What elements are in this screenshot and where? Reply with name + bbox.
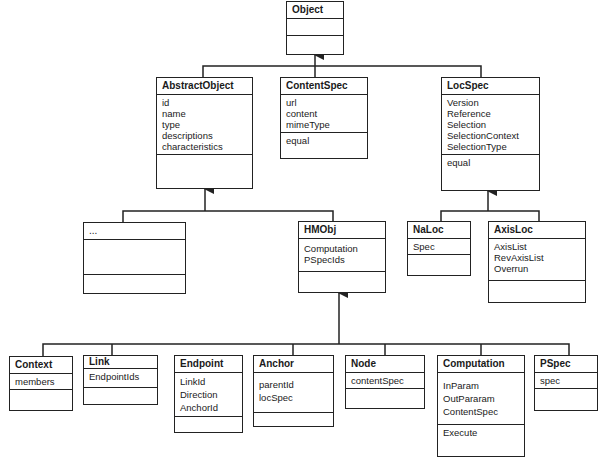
attribute: EndpointIds: [89, 371, 152, 382]
attribute: descriptions: [162, 130, 247, 141]
class-contentspec: ContentSpec url content mimeType equal: [280, 77, 368, 159]
class-name: Endpoint: [175, 356, 242, 373]
attribute: AnchorId: [180, 401, 237, 414]
operations-compartment: [489, 281, 585, 302]
attributes-compartment: InParam OutPararam ContentSpec: [438, 373, 524, 425]
attribute: name: [162, 108, 247, 119]
class-computation: Computation InParam OutPararam ContentSp…: [437, 355, 525, 457]
operation: equal: [447, 157, 534, 168]
class-name: ContentSpec: [281, 78, 367, 95]
attribute: OutPararam: [443, 392, 519, 405]
operation: Execute: [443, 427, 519, 438]
attribute: SelectionType: [447, 141, 534, 152]
class-hmobj: HMObj Computation PSpecIds: [298, 221, 386, 293]
attribute: parentId: [259, 378, 328, 391]
class-name: Context: [10, 357, 72, 374]
attribute: Spec: [413, 241, 465, 252]
attribute: Overrun: [494, 263, 580, 274]
attribute: InParam: [443, 379, 519, 392]
class-anchor: Anchor parentId locSpec: [253, 355, 334, 427]
attribute: locSpec: [259, 391, 328, 404]
operations-compartment: [157, 155, 252, 188]
operations-compartment: [10, 390, 72, 410]
class-endpoint: Endpoint LinkId Direction AnchorId: [174, 355, 243, 433]
operations-compartment: equal: [281, 133, 367, 158]
attributes-compartment: Spec: [408, 239, 470, 255]
operations-compartment: [346, 389, 424, 408]
operations-compartment: [175, 417, 242, 432]
attribute: Direction: [180, 388, 237, 401]
attributes-compartment: parentId locSpec: [254, 373, 333, 413]
attributes-compartment: contentSpec: [346, 373, 424, 389]
attributes-compartment: Version Reference Selection SelectionCon…: [442, 95, 539, 155]
class-axisloc: AxisLoc AxisList RevAxisList Overrun: [488, 221, 586, 303]
attribute: type: [162, 119, 247, 130]
attributes-compartment: members: [10, 374, 72, 390]
class-node: Node contentSpec: [345, 355, 425, 409]
attributes-compartment: id name type descriptions characteristic…: [157, 95, 252, 155]
attribute: SelectionContext: [447, 130, 534, 141]
attributes-compartment: spec: [535, 373, 597, 389]
attribute: PSpecIds: [304, 254, 380, 265]
attribute: id: [162, 97, 247, 108]
operations-compartment: [408, 255, 470, 275]
class-object: Object: [286, 1, 344, 55]
class-name: Node: [346, 356, 424, 373]
attribute: RevAxisList: [494, 252, 580, 263]
attribute: spec: [540, 375, 592, 386]
class-name: ...: [84, 223, 185, 240]
attributes-compartment: url content mimeType: [281, 95, 367, 133]
class-ellipsis: ...: [83, 222, 186, 294]
object-children-bus: [203, 66, 481, 77]
operations-compartment: [535, 389, 597, 410]
attributes-compartment: [287, 19, 343, 36]
class-locspec: LocSpec Version Reference Selection Sele…: [441, 77, 540, 191]
attribute: mimeType: [286, 119, 362, 130]
attributes-compartment: AxisList RevAxisList Overrun: [489, 239, 585, 281]
attribute: AxisList: [494, 241, 580, 252]
attribute: ContentSpec: [443, 405, 519, 418]
attributes-compartment: Computation PSpecIds: [299, 239, 385, 272]
attribute: content: [286, 108, 362, 119]
attribute: characteristics: [162, 141, 247, 152]
class-pspec: PSpec spec: [534, 355, 598, 411]
class-name: LocSpec: [442, 78, 539, 95]
attributes-compartment: LinkId Direction AnchorId: [175, 373, 242, 417]
attribute: Version: [447, 97, 534, 108]
class-name: HMObj: [299, 222, 385, 239]
operations-compartment: [299, 272, 385, 292]
attribute: Selection: [447, 119, 534, 130]
attribute: LinkId: [180, 375, 237, 388]
attribute: members: [15, 376, 67, 387]
class-name: NaLoc: [408, 222, 470, 239]
attribute: Computation: [304, 243, 380, 254]
operations-compartment: equal: [442, 155, 539, 190]
attribute: url: [286, 97, 362, 108]
class-name: Anchor: [254, 356, 333, 373]
attribute: contentSpec: [351, 375, 419, 386]
class-name: AbstractObject: [157, 78, 252, 95]
operation: equal: [286, 135, 362, 146]
class-name: AxisLoc: [489, 222, 585, 239]
attributes-compartment: [84, 240, 185, 275]
operations-compartment: [287, 36, 343, 54]
operations-compartment: [84, 388, 157, 404]
attributes-compartment: EndpointIds: [84, 369, 157, 388]
operations-compartment: [254, 413, 333, 426]
attribute: Reference: [447, 108, 534, 119]
operations-compartment: [84, 275, 185, 293]
operations-compartment: Execute: [438, 425, 524, 456]
class-name: PSpec: [535, 356, 597, 373]
class-link: Link EndpointIds: [83, 355, 158, 405]
class-abstractobject: AbstractObject id name type descriptions…: [156, 77, 253, 189]
locspec-children-bus: [441, 211, 539, 221]
class-name: Link: [84, 356, 157, 369]
class-name: Computation: [438, 356, 524, 373]
class-naloc: NaLoc Spec: [407, 221, 471, 276]
class-context: Context members: [9, 356, 73, 411]
class-name: Object: [287, 2, 343, 19]
